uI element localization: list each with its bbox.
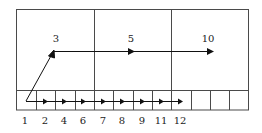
small-arrowhead-icon [43,99,48,105]
diagram-canvas: 3510 12467891112 [0,0,262,133]
large-arrowhead-icon [207,48,214,55]
small-arrowhead-icon [159,99,164,105]
cell-label-6: 6 [80,115,86,126]
bottom-labels: 12467891112 [22,115,187,126]
small-arrowhead-icon [81,99,86,105]
outer-frame [17,10,249,111]
small-arrowhead-icon [140,99,145,105]
cell-label-9: 9 [139,115,145,126]
cell-label-2: 2 [42,115,48,126]
small-arrowhead-icon [62,99,67,105]
bottom-cell-dividers [37,91,230,111]
cell-label-7: 7 [100,115,106,126]
small-arrowhead-icon [101,99,106,105]
large-arrowhead-icon [128,48,135,55]
node-label-5: 5 [128,33,134,44]
cell-label-8: 8 [119,115,125,126]
arrowhead-3-icon [49,50,55,58]
cell-label-11: 11 [155,115,168,126]
small-arrowhead-icon [120,99,125,105]
arrows [26,50,207,102]
upper-labels: 3510 [53,33,215,44]
node-label-10: 10 [202,33,215,44]
cell-label-1: 1 [22,115,28,126]
small-arrowhead-icon [178,99,183,105]
node-label-3: 3 [53,33,59,44]
cell-label-12: 12 [174,115,187,126]
cell-label-4: 4 [61,115,67,126]
